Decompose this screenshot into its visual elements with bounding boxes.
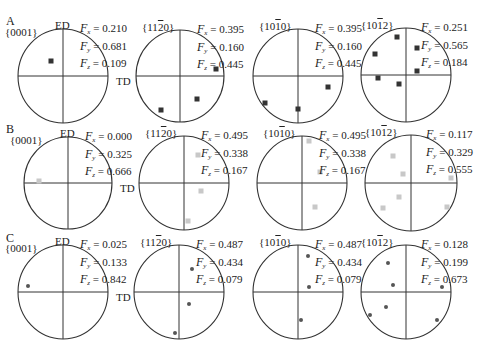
plane-label: {1012}: [361, 19, 394, 31]
pole-point: [415, 69, 420, 74]
f-values: Fx = 0.117Fy = 0.329Fz = 0.555: [426, 128, 473, 181]
pole-point: [37, 179, 42, 184]
fx-value: 0.210: [102, 22, 127, 34]
plane-label: {1010}: [259, 236, 292, 248]
fz-value: 0.842: [102, 273, 127, 285]
fx-value: 0.395: [219, 23, 244, 35]
pole-point: [395, 35, 400, 40]
f-values: Fx = 0.210Fy = 0.681Fz = 0.109: [80, 22, 127, 75]
fz-value: 0.079: [337, 273, 362, 285]
fy-value: 0.160: [219, 41, 244, 53]
pole-point: [190, 267, 194, 271]
pole-point: [401, 172, 406, 177]
f-values: Fx = 0.495Fy = 0.338Fz = 0.167: [319, 129, 366, 182]
fz-value: 0.673: [443, 273, 468, 285]
td-label: TD: [120, 182, 135, 194]
pole-point: [445, 205, 450, 210]
pole-point: [307, 139, 312, 144]
pole-point: [391, 154, 396, 159]
f-values: Fx = 0.395Fy = 0.160Fz = 0.445: [197, 23, 244, 76]
pole-point: [186, 219, 191, 224]
ed-label: ED: [55, 19, 70, 31]
f-values: Fx = 0.025Fy = 0.133Fz = 0.842: [80, 238, 127, 291]
pole-point: [435, 318, 439, 322]
fy-value: 0.434: [218, 256, 243, 268]
pole-point: [263, 101, 268, 106]
pole-point: [384, 305, 388, 309]
f-values: Fx = 0.395Fy = 0.160Fz = 0.445: [315, 22, 362, 75]
f-values: Fx = 0.251Fy = 0.565Fz = 0.184: [421, 21, 468, 74]
plane-label: {1010}: [259, 20, 292, 32]
pole-point: [376, 76, 381, 81]
pole-point: [159, 108, 164, 113]
fy-value: 0.199: [443, 256, 468, 268]
f-values: Fx = 0.487Fy = 0.434Fz = 0.079: [315, 238, 362, 291]
fy-value: 0.681: [102, 40, 127, 52]
fx-value: 0.128: [443, 238, 468, 250]
td-label: TD: [116, 291, 131, 303]
f-values: Fx = 0.128Fy = 0.199Fz = 0.673: [421, 238, 468, 291]
pole-point: [26, 284, 30, 288]
pole-point: [199, 189, 204, 194]
fy-value: 0.338: [223, 147, 248, 159]
fx-value: 0.487: [218, 238, 243, 250]
pole-point: [397, 195, 402, 200]
pole-point: [373, 52, 378, 57]
fz-value: 0.445: [337, 57, 362, 69]
plane-label: {0001}: [5, 26, 38, 38]
pole-point: [313, 205, 318, 210]
fx-value: 0.117: [448, 128, 472, 140]
plane-label: {1012}: [361, 236, 394, 248]
fy-value: 0.133: [102, 256, 127, 268]
fy-value: 0.325: [107, 148, 132, 160]
pole-point: [415, 46, 420, 51]
fx-value: 0.000: [107, 130, 132, 142]
fz-value: 0.666: [107, 165, 132, 177]
fx-value: 0.395: [337, 22, 362, 34]
fy-value: 0.434: [337, 256, 362, 268]
pole-point: [49, 59, 54, 64]
pole-point: [307, 285, 311, 289]
plane-label: {1012}: [365, 126, 398, 138]
plane-label: {1120}: [145, 127, 177, 139]
pole-point: [397, 82, 402, 87]
fz-value: 0.445: [219, 58, 244, 70]
fy-value: 0.329: [448, 146, 473, 158]
f-values: Fx = 0.495Fy = 0.338Fz = 0.167: [201, 129, 248, 182]
fx-value: 0.251: [443, 21, 468, 33]
plane-label: {1120}: [142, 21, 174, 33]
pole-point: [187, 302, 191, 306]
fy-value: 0.160: [337, 40, 362, 52]
fz-value: 0.167: [341, 164, 366, 176]
fz-value: 0.167: [223, 164, 248, 176]
plane-label: {0001}: [5, 242, 38, 254]
td-label: TD: [116, 75, 131, 87]
fz-value: 0.184: [443, 56, 468, 68]
pole-point: [386, 261, 390, 265]
fz-value: 0.555: [448, 163, 473, 175]
pole-point: [306, 254, 310, 258]
fy-value: 0.565: [443, 39, 468, 51]
pole-point: [391, 283, 395, 287]
fz-value: 0.109: [102, 57, 127, 69]
pole-point: [299, 318, 303, 322]
plane-label: {1120}: [140, 236, 172, 248]
pole-point: [196, 153, 201, 158]
fx-value: 0.487: [337, 238, 362, 250]
f-values: Fx = 0.487Fy = 0.434Fz = 0.079: [196, 238, 243, 291]
fx-value: 0.495: [223, 129, 248, 141]
fy-value: 0.338: [341, 147, 366, 159]
pole-point: [326, 85, 331, 90]
pole-point: [296, 107, 301, 112]
fz-value: 0.079: [218, 273, 243, 285]
plane-label: {1010}: [263, 127, 296, 139]
fx-value: 0.495: [341, 129, 366, 141]
ed-label: ED: [60, 127, 75, 139]
pole-figure-grid: A{0001}EDTDFx = 0.210Fy = 0.681Fz = 0.10…: [0, 0, 487, 348]
f-values: Fx = 0.000Fy = 0.325Fz = 0.666: [85, 130, 132, 183]
ed-label: ED: [55, 235, 70, 247]
pole-point: [173, 331, 177, 335]
pole-point: [195, 97, 200, 102]
pole-point: [368, 313, 372, 317]
plane-label: {0001}: [10, 134, 43, 146]
